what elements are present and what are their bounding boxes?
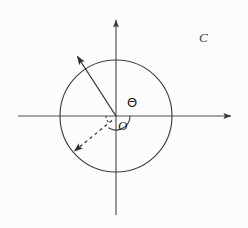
lower-angle-arc — [106, 116, 108, 122]
angle-label-theta: Θ — [127, 96, 137, 109]
figure-canvas: Θ O C — [0, 0, 248, 228]
solid-radius-vector — [78, 57, 117, 117]
dashed-radius-vector — [75, 121, 113, 152]
diagram-svg — [0, 0, 248, 228]
curve-label-c: C — [199, 31, 208, 44]
origin-label: O — [118, 119, 127, 132]
